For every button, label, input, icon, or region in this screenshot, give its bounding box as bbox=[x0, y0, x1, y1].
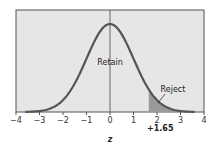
x-tick-label: 4 bbox=[201, 116, 206, 125]
reject-label: Reject bbox=[161, 85, 186, 94]
x-tick-label: 0 bbox=[107, 116, 112, 125]
x-tick-label: −3 bbox=[34, 116, 46, 125]
x-axis-ticks: −4−3−2−101234 bbox=[10, 112, 206, 125]
x-tick-label: 1 bbox=[131, 116, 136, 125]
critical-value-label: +1.65 bbox=[147, 124, 174, 133]
normal-distribution-chart: −4−3−2−101234 Retain Reject +1.65 z bbox=[0, 0, 220, 151]
x-tick-label: −2 bbox=[57, 116, 69, 125]
retain-label: Retain bbox=[97, 58, 122, 67]
x-tick-label: 3 bbox=[178, 116, 183, 125]
x-axis-label: z bbox=[107, 135, 113, 144]
x-tick-label: −1 bbox=[81, 116, 93, 125]
x-tick-label: −4 bbox=[10, 116, 22, 125]
